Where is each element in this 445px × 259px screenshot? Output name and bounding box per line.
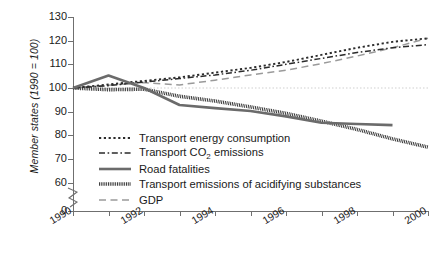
legend-swatch-icon <box>98 194 132 206</box>
legend-swatch-icon <box>98 163 132 175</box>
x-axis-tick <box>109 211 110 216</box>
x-axis-tick <box>251 211 252 216</box>
x-axis-tick <box>180 211 181 216</box>
legend-item-label: Transport energy consumption <box>139 132 290 144</box>
legend-item-label: GDP <box>139 194 163 206</box>
legend-swatch-icon <box>98 178 132 190</box>
x-axis-tick <box>393 211 394 216</box>
legend-item[interactable]: Transport energy consumption <box>98 130 361 146</box>
legend-item-label: Transport emissions of acidifying substa… <box>139 178 361 190</box>
legend-swatch-icon <box>98 132 132 144</box>
x-axis-tick <box>322 211 323 216</box>
legend-item-label: Road fatalities <box>139 163 210 175</box>
legend-item[interactable]: Transport emissions of acidifying substa… <box>98 177 361 193</box>
legend-item[interactable]: Road fatalities <box>98 161 361 177</box>
legend-swatch-icon <box>98 147 132 159</box>
chart-legend: Transport energy consumptionTransport CO… <box>98 130 361 208</box>
legend-item[interactable]: Transport CO2 emissions <box>98 146 361 162</box>
chart-figure: Member states (1990 = 100) 1301201101009… <box>0 0 445 259</box>
legend-item-label: Transport CO2 emissions <box>139 146 264 161</box>
